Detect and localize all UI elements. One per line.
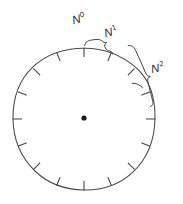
tick-mark [34, 163, 40, 169]
brace-n2 [128, 46, 153, 107]
tick-mark [142, 143, 150, 146]
tick-mark [142, 92, 150, 95]
tick-mark [57, 53, 60, 61]
tick-mark [18, 92, 26, 95]
tick-mark [18, 143, 26, 146]
tick-mark [128, 163, 134, 169]
tick-mark [57, 177, 60, 185]
circle-diagram-svg [0, 0, 183, 204]
tick-mark [108, 177, 111, 185]
tick-mark [128, 69, 134, 75]
label-n2: N2 [150, 60, 165, 75]
tick-mark [34, 69, 40, 75]
center-point-dot [81, 115, 86, 120]
brace-n2-leader [132, 83, 142, 88]
tick-mark [108, 53, 111, 61]
figure-container: N0 N1 N2 [0, 0, 183, 204]
